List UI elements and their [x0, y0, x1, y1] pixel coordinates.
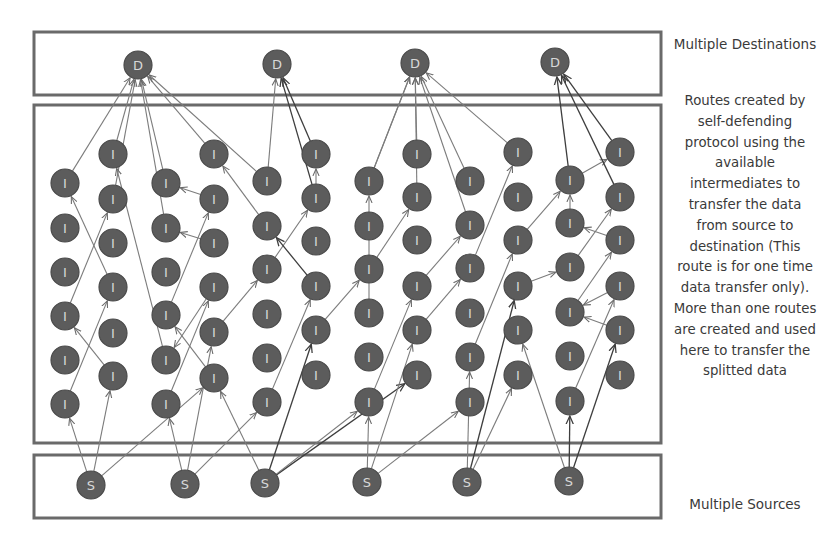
- intermediate-node: I: [152, 169, 180, 197]
- intermediate-node: I: [302, 361, 330, 389]
- intermediate-node-label: I: [568, 173, 572, 188]
- intermediate-node: I: [253, 300, 281, 328]
- intermediate-node-label: I: [618, 279, 622, 294]
- intermediate-node: I: [152, 346, 180, 374]
- intermediate-node: I: [355, 343, 383, 371]
- source-node-label: S: [261, 476, 269, 491]
- intermediate-node: I: [606, 183, 634, 211]
- route-arrow: [584, 317, 607, 325]
- intermediate-node: I: [456, 299, 484, 327]
- intermediate-node: I: [403, 316, 431, 344]
- intermediate-node: I: [556, 253, 584, 281]
- intermediate-node: I: [606, 361, 634, 389]
- intermediate-node-label: I: [164, 353, 168, 368]
- intermediate-node-label: I: [568, 260, 572, 275]
- intermediate-node: I: [403, 226, 431, 254]
- intermediate-node-label: I: [618, 323, 622, 338]
- source-node-label: S: [181, 477, 189, 492]
- intermediate-node: I: [51, 390, 79, 418]
- intermediate-node: I: [302, 140, 330, 168]
- intermediate-node-label: I: [164, 265, 168, 280]
- intermediate-node-label: I: [568, 305, 572, 320]
- intermediate-node-label: I: [415, 147, 419, 162]
- intermediate-node-label: I: [618, 233, 622, 248]
- intermediate-node: I: [302, 316, 330, 344]
- intermediate-node-label: I: [265, 219, 269, 234]
- intermediate-node: I: [355, 299, 383, 327]
- intermediate-node-label: I: [516, 190, 520, 205]
- route-arrow: [578, 209, 611, 255]
- intermediate-node-label: I: [468, 261, 472, 276]
- source-node: S: [353, 468, 381, 496]
- intermediate-node-label: I: [618, 368, 622, 383]
- intermediate-node: I: [51, 258, 79, 286]
- destination-node: D: [263, 50, 291, 78]
- route-arrow: [70, 418, 87, 471]
- intermediate-node-label: I: [212, 192, 216, 207]
- intermediate-node-label: I: [314, 279, 318, 294]
- intermediate-node-label: I: [568, 216, 572, 231]
- intermediate-node: I: [606, 138, 634, 166]
- route-arrow: [583, 293, 607, 306]
- intermediate-node: I: [200, 140, 228, 168]
- intermediate-node: I: [99, 362, 127, 390]
- intermediate-node-label: I: [415, 279, 419, 294]
- intermediate-node: I: [99, 319, 127, 347]
- intermediate-node: I: [355, 255, 383, 283]
- source-node: S: [453, 468, 481, 496]
- route-arrow: [584, 228, 607, 236]
- source-node-label: S: [87, 478, 95, 493]
- intermediate-node-label: I: [516, 279, 520, 294]
- intermediate-node-label: I: [212, 371, 216, 386]
- intermediate-node-label: I: [111, 326, 115, 341]
- route-edges: [70, 73, 616, 476]
- intermediate-node-label: I: [212, 236, 216, 251]
- intermediate-node: I: [504, 272, 532, 300]
- intermediate-node: I: [253, 388, 281, 416]
- intermediate-node-label: I: [468, 395, 472, 410]
- intermediate-node: I: [403, 361, 431, 389]
- source-node: S: [251, 469, 279, 497]
- intermediate-node-label: I: [516, 323, 520, 338]
- intermediate-node: I: [504, 138, 532, 166]
- intermediate-node: I: [456, 167, 484, 195]
- intermediate-node: I: [403, 272, 431, 300]
- intermediate-node-label: I: [618, 145, 622, 160]
- intermediate-node-label: I: [468, 174, 472, 189]
- route-arrow: [180, 233, 200, 239]
- route-arrow: [367, 417, 368, 468]
- intermediate-node: I: [504, 183, 532, 211]
- intermediate-node: I: [51, 302, 79, 330]
- intermediate-node: I: [99, 229, 127, 257]
- intermediate-node-label: I: [63, 353, 67, 368]
- route-arrow: [531, 272, 556, 281]
- intermediate-node-label: I: [367, 219, 371, 234]
- intermediate-node: I: [152, 214, 180, 242]
- intermediate-node-label: I: [212, 280, 216, 295]
- intermediate-node-label: I: [367, 395, 371, 410]
- intermediate-node: I: [403, 140, 431, 168]
- intermediate-node: I: [302, 184, 330, 212]
- intermediate-node: I: [504, 316, 532, 344]
- intermediate-node-label: I: [568, 394, 572, 409]
- intermediate-node-label: I: [111, 369, 115, 384]
- intermediate-node: I: [152, 258, 180, 286]
- intermediate-node: I: [253, 212, 281, 240]
- intermediate-node: I: [200, 185, 228, 213]
- intermediate-node-label: I: [367, 174, 371, 189]
- intermediate-node: I: [200, 229, 228, 257]
- intermediate-node-label: I: [367, 262, 371, 277]
- network-nodes: DDDDSSSSSSIIIIIIIIIIIIIIIIIIIIIIIIIIIIII…: [51, 48, 634, 499]
- source-node-label: S: [463, 475, 471, 490]
- routes-description: Routes created by self-defending protoco…: [672, 91, 818, 382]
- intermediate-node-label: I: [367, 350, 371, 365]
- destination-node: D: [401, 49, 429, 77]
- intermediate-node: I: [456, 254, 484, 282]
- intermediate-node: I: [556, 342, 584, 370]
- destination-node-label: D: [133, 58, 143, 73]
- intermediate-node: I: [99, 140, 127, 168]
- intermediate-node: I: [51, 346, 79, 374]
- intermediate-node: I: [456, 343, 484, 371]
- intermediate-node: I: [355, 167, 383, 195]
- sources-label: Multiple Sources: [672, 494, 818, 514]
